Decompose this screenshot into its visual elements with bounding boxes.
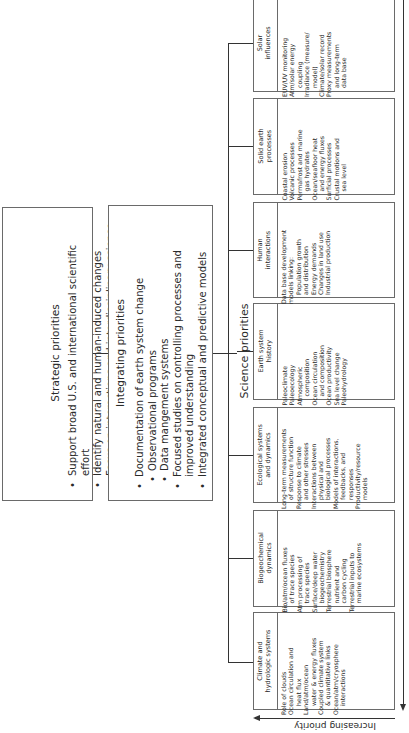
connector-strategic-integrating — [93, 353, 108, 354]
column-biogeochemical-body: Bio/atm/ocean fluxes of trace species At… — [278, 521, 394, 616]
column-ecological-body: Long-term measurements of structure func… — [277, 418, 393, 512]
branch-solid-earth — [228, 146, 253, 147]
integrating-priorities-list: Documentation of earth system change Obs… — [134, 215, 209, 491]
column-earth-history-body: Paleoclimate Paleoecology Atmospheric co… — [278, 314, 394, 409]
list-item: Support broad U.S. and international sci… — [67, 216, 92, 490]
integrating-priorities-title: Integrating priorities — [114, 215, 126, 491]
connector-integrating-spine — [213, 353, 229, 354]
list-item: Observational programs — [147, 215, 160, 491]
column-human-title: Human interactions — [252, 203, 276, 297]
column-solid-earth-body: Coastal erosion Volcanic processes Perma… — [278, 109, 394, 204]
branch-ecological — [228, 455, 253, 456]
strategic-priorities-title: Strategic priorities — [49, 216, 61, 490]
list-item: Documentation of earth system change — [134, 215, 147, 491]
science-label-tick — [229, 353, 237, 354]
arrow-down-icon — [400, 704, 406, 711]
column-biogeochemical-title: Biogeochemical dynamics — [253, 511, 277, 606]
branch-human — [228, 250, 253, 251]
branch-climate — [228, 662, 253, 663]
branch-solar — [228, 43, 253, 44]
priority-axis-vertical-line — [403, 0, 404, 706]
column-climate-body: Role of clouds Ocean circulation and hea… — [277, 622, 393, 718]
column-earth-history-title: Earth system history — [253, 304, 277, 399]
integrating-priorities-content: Integrating priorities Documentation of … — [110, 209, 210, 497]
branch-earth-history — [237, 351, 253, 352]
column-solar-title: Solar influences — [252, 0, 276, 91]
column-human-body: Data base development models linking: Po… — [277, 213, 393, 307]
arrow-left-icon — [253, 715, 260, 721]
increasing-priority-label: Increasing priority — [285, 720, 385, 732]
list-item-continuation: improved understanding — [184, 215, 197, 491]
branch-biogeochemical — [228, 558, 253, 559]
column-solar-body: EUV/UV monitoring Atm/solar energy coupl… — [278, 4, 394, 100]
priority-axis-horizontal-line — [258, 718, 395, 719]
list-item: Integrated conceptual and predictive mod… — [197, 215, 210, 491]
column-climate-title: Climate and hydrologic systems — [252, 613, 276, 709]
list-item: Focused studies on controlling processes… — [172, 215, 185, 491]
column-ecological-title: Ecological systems and dynamics — [252, 408, 276, 502]
column-solid-earth-title: Solid earth processes — [253, 99, 277, 194]
list-item: Data mangement systems — [159, 215, 172, 491]
